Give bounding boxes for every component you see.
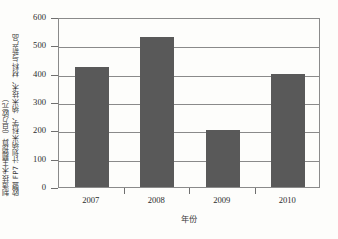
bar (271, 74, 305, 187)
y-axis-tick-label: 100 (6, 155, 46, 164)
y-axis-tick-label: 300 (6, 98, 46, 107)
y-axis-tick (51, 160, 58, 161)
bar (140, 37, 174, 187)
y-axis-tick (51, 75, 58, 76)
x-axis-tick-label: 2008 (126, 196, 186, 205)
y-axis-tick-label: 200 (6, 126, 46, 135)
y-axis-tick (51, 46, 58, 47)
bar (206, 130, 240, 187)
x-axis-tick (189, 188, 190, 194)
y-axis-tick (51, 188, 58, 189)
y-axis-tick-label: 600 (6, 13, 46, 22)
y-axis-tick-label: 500 (6, 41, 46, 50)
x-axis-tick (124, 188, 125, 194)
x-axis-tick-label: 2007 (61, 196, 121, 205)
y-axis-tick (51, 103, 58, 104)
y-axis-tick (51, 131, 58, 132)
x-axis-tick-label: 2009 (192, 196, 252, 205)
bar-series (59, 19, 319, 187)
plot-area (58, 18, 320, 188)
x-axis-tick-label: 2010 (257, 196, 317, 205)
y-axis-tick-label: 400 (6, 70, 46, 79)
y-axis-tick-label: 0 (6, 183, 46, 192)
x-axis-label: 年份 (58, 212, 320, 224)
bar (75, 67, 109, 187)
bar-chart-figure: 欧盟 FP7 计划纳米科学、纳米技术、材料与新产品 制造技术主题预算（百万欧元）… (0, 0, 338, 239)
y-axis-tick (51, 18, 58, 19)
x-axis-tick (255, 188, 256, 194)
